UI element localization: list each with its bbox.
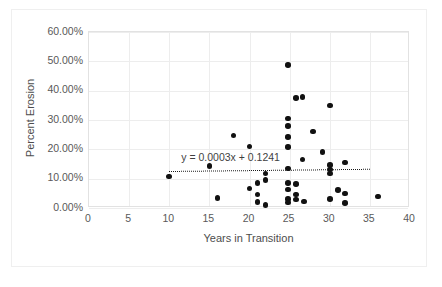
data-point (263, 171, 269, 177)
data-point (285, 200, 291, 206)
gridline-vertical (169, 32, 170, 206)
data-point (342, 160, 348, 166)
data-point (263, 202, 269, 208)
data-point (215, 195, 221, 201)
data-point (231, 133, 237, 139)
gridline-horizontal (89, 208, 408, 209)
data-point (327, 103, 333, 109)
data-point (263, 177, 269, 183)
data-point (293, 181, 299, 187)
x-tick-label: 30 (309, 212, 349, 224)
data-point (327, 196, 333, 202)
gridline-horizontal (89, 61, 408, 62)
data-point (300, 157, 306, 163)
y-axis-tick-labels: 0.00%10.00%20.00%30.00%40.00%50.00%60.00… (0, 31, 83, 207)
gridline-horizontal (89, 179, 408, 180)
data-point (255, 192, 261, 198)
trendline (169, 169, 370, 172)
y-tick-label: 60.00% (3, 26, 83, 37)
data-point (247, 186, 253, 192)
y-tick-label: 10.00% (3, 172, 83, 183)
x-tick-label: 40 (389, 212, 429, 224)
data-point (285, 187, 291, 193)
gridline-horizontal (89, 32, 408, 33)
x-tick-label: 35 (349, 212, 389, 224)
x-tick-label: 15 (188, 212, 228, 224)
trendline-equation-label: y = 0.0003x + 0.1241 (181, 151, 280, 163)
y-tick-label: 50.00% (3, 55, 83, 66)
data-point (342, 191, 348, 197)
gridline-vertical (330, 32, 331, 206)
data-point (293, 197, 299, 203)
data-point (285, 116, 291, 122)
data-point (335, 187, 341, 193)
data-point (310, 129, 316, 135)
x-tick-label: 10 (148, 212, 188, 224)
gridline-vertical (370, 32, 371, 206)
data-point (327, 171, 333, 177)
gridline-vertical (209, 32, 210, 206)
data-point (375, 194, 381, 200)
data-point (300, 94, 306, 100)
x-tick-label: 0 (68, 212, 108, 224)
data-point (166, 174, 172, 180)
data-point (207, 163, 213, 169)
x-axis-tick-labels: 0510152025303540 (88, 212, 409, 226)
y-tick-label: 40.00% (3, 84, 83, 95)
data-point (342, 200, 348, 206)
data-point (293, 95, 299, 101)
x-tick-label: 25 (269, 212, 309, 224)
x-axis-title: Years in Transition (88, 232, 409, 244)
plot-area: y = 0.0003x + 0.1241 (88, 31, 409, 207)
data-point (285, 62, 291, 68)
data-point (285, 180, 291, 186)
data-point (285, 144, 291, 150)
scatter-chart: Percent Erosion 0.00%10.00%20.00%30.00%4… (0, 0, 442, 287)
gridline-vertical (129, 32, 130, 206)
y-tick-label: 0.00% (3, 202, 83, 213)
x-tick-label: 5 (108, 212, 148, 224)
gridline-vertical (250, 32, 251, 206)
data-point (301, 199, 307, 205)
data-point (285, 134, 291, 140)
gridline-horizontal (89, 120, 408, 121)
y-tick-label: 30.00% (3, 114, 83, 125)
data-point (255, 180, 261, 186)
data-point (285, 123, 291, 129)
gridline-horizontal (89, 91, 408, 92)
y-tick-label: 20.00% (3, 143, 83, 154)
data-point (255, 199, 261, 205)
data-point (320, 149, 326, 155)
x-tick-label: 20 (229, 212, 269, 224)
